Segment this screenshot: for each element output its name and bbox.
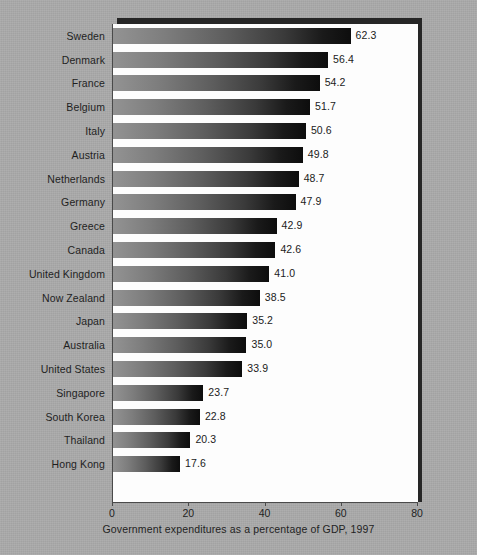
bar <box>113 147 303 163</box>
bar-value-label: 23.7 <box>208 386 229 398</box>
bar <box>113 337 246 353</box>
bar-row: 41.0 <box>113 266 418 282</box>
category-label: Netherlands <box>1 173 105 185</box>
x-tick-mark <box>265 502 266 506</box>
bar-row: 22.8 <box>113 409 418 425</box>
bar-value-label: 50.6 <box>311 124 332 136</box>
bar-row: 20.3 <box>113 432 418 448</box>
bar <box>113 266 269 282</box>
category-axis-labels: SwedenDenmarkFranceBelgiumItalyAustriaNe… <box>0 24 105 476</box>
x-tick-mark <box>341 502 342 506</box>
bar <box>113 99 310 115</box>
category-label: Denmark <box>1 54 105 66</box>
bar-row: 48.7 <box>113 171 418 187</box>
bar <box>113 218 277 234</box>
bar-row: 23.7 <box>113 385 418 401</box>
bar-value-label: 17.6 <box>185 457 206 469</box>
bar-row: 54.2 <box>113 75 418 91</box>
bar-row: 42.9 <box>113 218 418 234</box>
bar <box>113 313 247 329</box>
bar-row: 51.7 <box>113 99 418 115</box>
bar-value-label: 51.7 <box>315 100 336 112</box>
x-tick-label: 20 <box>182 507 194 519</box>
category-label: Hong Kong <box>1 458 105 470</box>
bar-row: 62.3 <box>113 28 418 44</box>
category-label: United States <box>1 363 105 375</box>
bar-row: 17.6 <box>113 456 418 472</box>
bar-row: 50.6 <box>113 123 418 139</box>
bar <box>113 361 242 377</box>
bar-value-label: 42.6 <box>280 243 301 255</box>
category-label: Belgium <box>1 101 105 113</box>
bar <box>113 194 296 210</box>
bar-row: 33.9 <box>113 361 418 377</box>
bar <box>113 432 190 448</box>
bar <box>113 123 306 139</box>
bar-value-label: 35.2 <box>252 314 273 326</box>
category-label: United Kingdom <box>1 268 105 280</box>
bar-value-label: 48.7 <box>304 172 325 184</box>
bar-chart-figure: SwedenDenmarkFranceBelgiumItalyAustriaNe… <box>0 0 477 555</box>
x-axis-caption: Government expenditures as a percentage … <box>0 523 477 535</box>
category-label: Canada <box>1 244 105 256</box>
category-label: Austria <box>1 149 105 161</box>
category-label: Japan <box>1 315 105 327</box>
bar <box>113 385 203 401</box>
bar-value-label: 22.8 <box>205 410 226 422</box>
bar-value-label: 33.9 <box>247 362 268 374</box>
bars-layer: 62.356.454.251.750.649.848.747.942.942.6… <box>113 24 418 476</box>
bar-value-label: 54.2 <box>325 76 346 88</box>
bar <box>113 75 320 91</box>
bar-value-label: 20.3 <box>195 433 216 445</box>
bar <box>113 171 299 187</box>
category-label: Germany <box>1 196 105 208</box>
bar-value-label: 62.3 <box>356 29 377 41</box>
bar-row: 49.8 <box>113 147 418 163</box>
category-label: Now Zealand <box>1 292 105 304</box>
x-tick-mark <box>188 502 189 506</box>
category-label: Thailand <box>1 434 105 446</box>
category-label: South Korea <box>1 411 105 423</box>
x-tick-label: 60 <box>335 507 347 519</box>
bar <box>113 409 200 425</box>
x-tick-mark <box>112 502 113 506</box>
bar-value-label: 38.5 <box>265 291 286 303</box>
bar-row: 47.9 <box>113 194 418 210</box>
bar-value-label: 49.8 <box>308 148 329 160</box>
x-tick-mark <box>417 502 418 506</box>
bar <box>113 456 180 472</box>
bar <box>113 242 275 258</box>
category-label: Australia <box>1 339 105 351</box>
bar-row: 42.6 <box>113 242 418 258</box>
category-label: Italy <box>1 125 105 137</box>
category-label: Singapore <box>1 387 105 399</box>
x-tick-label: 0 <box>109 507 115 519</box>
bar-row: 35.0 <box>113 337 418 353</box>
bar-row: 56.4 <box>113 52 418 68</box>
category-label: Greece <box>1 220 105 232</box>
plot-area: 62.356.454.251.750.649.848.747.942.942.6… <box>112 24 418 502</box>
bar <box>113 52 328 68</box>
bar-value-label: 42.9 <box>282 219 303 231</box>
bar-row: 38.5 <box>113 290 418 306</box>
x-tick-label: 80 <box>411 507 423 519</box>
bar-value-label: 47.9 <box>301 195 322 207</box>
bar-row: 35.2 <box>113 313 418 329</box>
bar <box>113 28 351 44</box>
category-label: France <box>1 77 105 89</box>
bar-value-label: 56.4 <box>333 53 354 65</box>
x-tick-label: 40 <box>259 507 271 519</box>
category-label: Sweden <box>1 30 105 42</box>
bar-value-label: 41.0 <box>274 267 295 279</box>
bar <box>113 290 260 306</box>
bar-value-label: 35.0 <box>251 338 272 350</box>
